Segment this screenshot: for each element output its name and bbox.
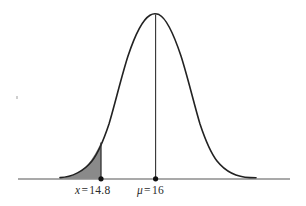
mean-equals-sign: =	[143, 184, 152, 196]
normal-distribution-figure: x=14.8 μ=16	[0, 0, 306, 206]
shaded-left-tail-region	[61, 143, 102, 179]
x-value-label: x=14.8	[75, 184, 111, 196]
x-value-number: 14.8	[89, 184, 110, 196]
x-value-axis-point	[98, 176, 103, 181]
distribution-plot	[0, 0, 306, 206]
mean-value-number: 16	[152, 184, 164, 196]
scan-artifact-speck	[16, 96, 18, 99]
normal-curve	[60, 14, 256, 178]
x-equals-sign: =	[80, 184, 89, 196]
mean-axis-point	[153, 176, 158, 181]
mean-value-label: μ=16	[137, 184, 164, 196]
